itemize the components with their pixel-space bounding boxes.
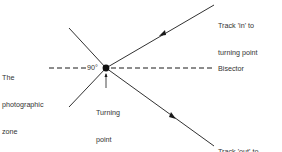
track-out-label-line1: Track 'out' to: [218, 147, 273, 152]
track-out-arrow-icon: [169, 112, 176, 119]
turning-point-label-line2: point: [96, 135, 120, 144]
turning-point-dot: [103, 65, 110, 72]
photographic-zone-label-line3: zone: [2, 127, 44, 136]
photographic-zone-label: The photographic zone: [2, 55, 44, 145]
track-out-label: Track 'out' to next turning point: [218, 129, 273, 152]
turning-point-label-line1: Turning: [96, 108, 120, 117]
track-out-line: [106, 68, 214, 146]
track-in-label: Track 'in' to turning point: [218, 3, 258, 66]
angle-label: 90°: [87, 63, 98, 72]
turning-point-pointer-arrow-icon: [105, 73, 108, 77]
track-in-label-line1: Track 'in' to: [218, 21, 258, 30]
track-in-arrow-icon: [159, 30, 166, 36]
track-in-line: [106, 5, 214, 68]
turning-point-label: Turning point: [96, 90, 120, 152]
track-in-label-line2: turning point: [218, 48, 258, 57]
photographic-zone-label-line1: The: [2, 73, 44, 82]
photographic-zone-label-line2: photographic: [2, 100, 44, 109]
track-out-extension-line: [69, 28, 106, 68]
